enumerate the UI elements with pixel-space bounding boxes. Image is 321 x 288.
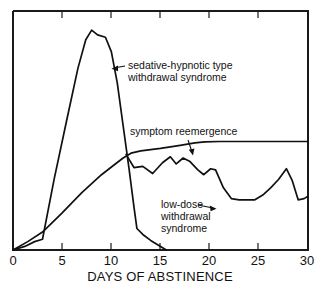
xtick-label-25: 25 (251, 253, 265, 268)
xtick-label-5: 5 (58, 253, 65, 268)
sedative-hypnotic-annotation: sedative-hypnotic type withdrawal syndro… (112, 59, 233, 83)
lowdose-annotation-line2: withdrawal (160, 210, 211, 222)
top-axis-ticks (62, 11, 258, 18)
lowdose-annotation-line3: syndrome (161, 222, 207, 234)
chart-figure: 0 5 10 15 20 25 30 DAYS OF ABSTINENCE se… (0, 0, 321, 288)
xtick-label-0: 0 (9, 253, 16, 268)
down-arrow-icon (189, 149, 195, 156)
sedative-annotation-line1: sedative-hypnotic type (128, 59, 233, 71)
right-arrow-icon (210, 206, 217, 212)
xtick-label-30: 30 (300, 253, 314, 268)
xtick-label-10: 10 (104, 253, 118, 268)
sedative-annotation-line2: withdrawal syndrome (127, 71, 227, 83)
lowdose-annotation-line1: low-dose (161, 198, 203, 210)
xtick-label-20: 20 (202, 253, 216, 268)
chart-svg: 0 5 10 15 20 25 30 DAYS OF ABSTINENCE se… (0, 0, 321, 288)
reemergence-annotation-line1: symptom reemergence (130, 125, 238, 137)
low-dose-annotation: low-dose withdrawal syndrome (160, 198, 217, 234)
curve-low-dose-withdrawal (126, 154, 308, 199)
x-axis-title: DAYS OF ABSTINENCE (87, 269, 233, 284)
xtick-label-15: 15 (153, 253, 167, 268)
